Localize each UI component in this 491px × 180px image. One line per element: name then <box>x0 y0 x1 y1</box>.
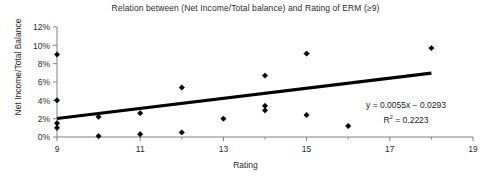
data-point <box>96 133 101 138</box>
data-point <box>304 112 309 117</box>
data-point <box>54 98 59 103</box>
y-tick-label: 2% <box>38 114 51 124</box>
r-squared-text: R2 = 0.2223 <box>336 111 476 126</box>
y-tick-label: 10% <box>33 41 50 51</box>
data-point <box>138 110 143 115</box>
y-tick-label: 8% <box>38 59 51 69</box>
data-point <box>304 51 309 56</box>
data-point <box>179 130 184 135</box>
x-tick-label: 9 <box>55 144 60 154</box>
y-tick-label: 0% <box>38 132 51 142</box>
chart-container: Relation between (Net Income/Total balan… <box>0 0 491 180</box>
x-tick-label: 15 <box>302 144 312 154</box>
regression-annotation: y = 0.0055x − 0.0293 R2 = 0.2223 <box>336 99 476 126</box>
data-point <box>429 45 434 50</box>
x-tick-label: 13 <box>219 144 229 154</box>
equation-text: y = 0.0055x − 0.0293 <box>336 99 476 111</box>
r-squared-value: = 0.2223 <box>393 115 429 125</box>
plot-area: 0%2%4%6%8%10%12%91113151719 <box>0 0 491 180</box>
data-point <box>54 125 59 130</box>
data-point <box>262 73 267 78</box>
data-point <box>221 116 226 121</box>
y-tick-label: 12% <box>33 22 50 32</box>
data-point <box>262 108 267 113</box>
x-tick-label: 11 <box>136 144 145 154</box>
data-point <box>138 132 143 137</box>
data-point <box>54 52 59 57</box>
y-tick-label: 4% <box>38 96 51 106</box>
data-point <box>179 85 184 90</box>
y-tick-label: 6% <box>38 77 51 87</box>
x-tick-label: 17 <box>385 144 395 154</box>
x-tick-label: 19 <box>468 144 478 154</box>
